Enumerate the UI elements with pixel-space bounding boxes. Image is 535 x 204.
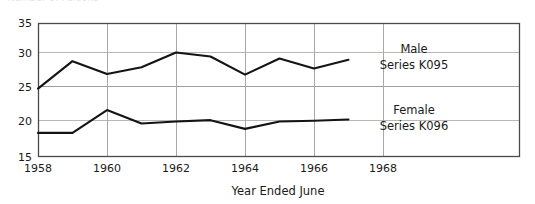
line-chart: 35 30 25 20 15 1958 1960 1962 1964 1966 …: [0, 0, 535, 204]
y-tick-30: 30: [18, 47, 32, 60]
y-tick-35: 35: [18, 17, 32, 30]
x-axis-tick-labels: 1958 1960 1962 1964 1966 1968: [24, 162, 397, 175]
x-tick-1966: 1966: [300, 162, 328, 175]
x-axis-title: Year Ended June: [231, 184, 325, 198]
x-tick-1964: 1964: [231, 162, 259, 175]
y-axis-tick-labels: 35 30 25 20 15: [18, 17, 32, 164]
plot-background: [38, 23, 520, 157]
chart-figure: Number of Persons 35 30 25 20: [0, 0, 535, 204]
y-tick-20: 20: [18, 115, 32, 128]
series-label-male-name: Male: [400, 42, 427, 56]
x-tick-1968: 1968: [369, 162, 397, 175]
series-label-female-name: Female: [393, 103, 435, 117]
y-tick-25: 25: [18, 81, 32, 94]
x-tick-1960: 1960: [93, 162, 121, 175]
x-tick-1962: 1962: [162, 162, 190, 175]
series-label-female-code: Series K096: [380, 119, 449, 133]
x-tick-1958: 1958: [24, 162, 52, 175]
series-label-male-code: Series K095: [380, 58, 449, 72]
